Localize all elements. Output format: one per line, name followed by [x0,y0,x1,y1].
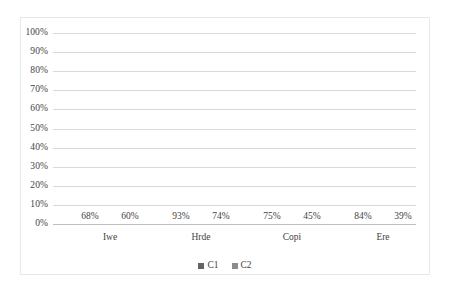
bar-group-iwe: 68% 60% Iwe [74,33,146,224]
chart-frame: 100% 90% 80% 70% 60% 50% 40% 30% 20% 10%… [20,17,430,275]
ytick-label-80: 80% [30,66,48,76]
bar-value-label: 60% [121,212,138,222]
bar-value-label: 68% [81,212,98,222]
ytick-label-90: 90% [30,47,48,57]
ytick-label-20: 20% [30,181,48,191]
xtick-label-ere: Ere [376,233,389,243]
ytick-label-60: 60% [30,105,48,115]
bar-value-label: 74% [212,212,229,222]
bar-value-label: 45% [303,212,320,222]
bar-group-hrde: 93% 74% Hrde [165,33,237,224]
ytick-label-30: 30% [30,162,48,172]
ytick-label-40: 40% [30,143,48,153]
legend-label-c2: C2 [241,261,252,271]
xtick-label-copi: Copi [283,233,301,243]
plot-area: 100% 90% 80% 70% 60% 50% 40% 30% 20% 10%… [53,33,416,224]
ytick-label-0: 0% [35,219,48,229]
bar-value-label: 75% [263,212,280,222]
bar-value-label: 84% [354,212,371,222]
axis-baseline [53,224,416,225]
bar-group-ere: 84% 39% Ere [347,33,419,224]
chart-legend: C1 C2 [21,261,429,271]
bar-value-label: 39% [394,212,411,222]
ytick-label-70: 70% [30,86,48,96]
ytick-label-50: 50% [30,124,48,134]
xtick-label-hrde: Hrde [192,233,211,243]
ytick-label-10: 10% [30,200,48,210]
legend-swatch-icon [232,263,238,269]
xtick-label-iwe: Iwe [103,233,117,243]
legend-item-c2[interactable]: C2 [232,261,252,271]
ytick-label-100: 100% [25,28,48,38]
bar-group-copi: 75% 45% Copi [256,33,328,224]
legend-label-c1: C1 [207,261,218,271]
legend-swatch-icon [198,263,204,269]
bar-value-label: 93% [172,212,189,222]
legend-item-c1[interactable]: C1 [198,261,218,271]
